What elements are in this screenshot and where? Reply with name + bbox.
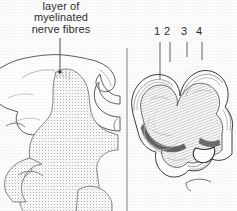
right-bottom-hook-tail xyxy=(186,183,191,191)
layer-number-label-2: 2 xyxy=(162,26,172,37)
left-lower-gyrus-b xyxy=(76,186,112,211)
right-cortex-section xyxy=(132,66,234,191)
figure-root: layer of myelinated nerve fibres 1 2 3 4 xyxy=(0,0,237,211)
layer-number-label-3: 3 xyxy=(179,26,189,37)
left-cortex-section xyxy=(0,55,120,211)
layer-number-label-4: 4 xyxy=(194,26,204,37)
right-bottom-hook xyxy=(186,179,211,183)
myelin-leader-dot xyxy=(58,70,61,73)
caption-line-3: nerve fibres xyxy=(0,24,122,35)
caption-line-2: myelinated xyxy=(0,12,122,23)
layer-number-label-1: 1 xyxy=(152,26,162,37)
myelin-layer-caption: layer of myelinated nerve fibres xyxy=(0,1,122,35)
